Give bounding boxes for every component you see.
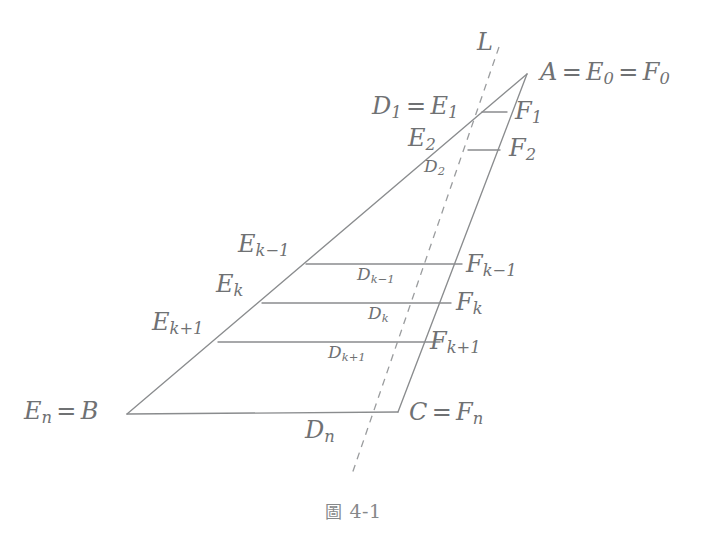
- label-F1: F1: [515, 99, 542, 126]
- label-F2: F2: [509, 136, 536, 163]
- label-Dn: Dn: [305, 418, 335, 445]
- label-F-k-plus-1: Fk+1: [430, 329, 481, 356]
- label-D-k-minus-1: Dk−1: [357, 266, 395, 285]
- label-D1-equals-E1: D1=E1: [372, 94, 458, 121]
- label-line-L: L: [477, 30, 493, 54]
- label-E-k-plus-1: Ek+1: [152, 310, 203, 337]
- label-apex-A: A=E0=F0: [540, 60, 670, 87]
- label-E-k-minus-1: Ek−1: [238, 232, 289, 259]
- label-E2: E2: [408, 126, 436, 153]
- figure-page: L A=E0=F0 D1=E1 F1 E2 F2 D2 Ek−1 Fk−1 Dk…: [0, 0, 707, 533]
- label-D2: D2: [424, 158, 445, 177]
- label-En-equals-B: En=B: [24, 399, 98, 426]
- figure-caption-cjk: 圖: [325, 502, 343, 522]
- figure-caption: 圖 4-1: [0, 498, 707, 523]
- base-BC: [127, 412, 398, 414]
- label-D-k: Dk: [368, 305, 389, 324]
- label-D-k-plus-1: Dk+1: [328, 344, 366, 363]
- label-C-equals-Fn: C=Fn: [409, 400, 483, 427]
- side-AB: [127, 74, 527, 414]
- label-E-k: Ek: [216, 272, 243, 299]
- label-F-k-minus-1: Fk−1: [466, 252, 517, 279]
- label-F-k: Fk: [456, 290, 483, 317]
- figure-caption-number: 4-1: [349, 500, 381, 522]
